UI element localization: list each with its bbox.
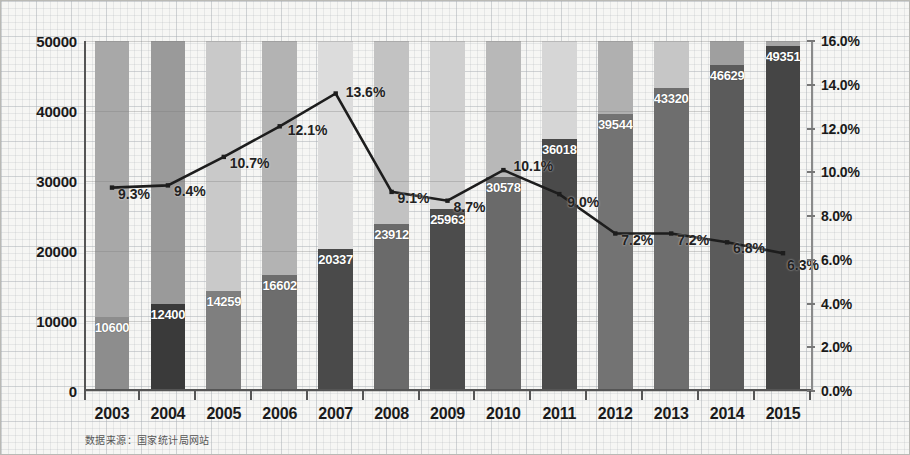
y-axis-right-tick [807,303,815,305]
x-axis-tick [140,391,196,400]
x-axis-tick-label: 2010 [475,405,531,423]
y-axis-right-tick [807,128,815,130]
y-axis-right-tick [807,171,815,173]
source-note: 数据来源：国家统计局网站 [85,432,210,447]
y-axis-left-tick-label: 30000 [36,173,77,190]
y-axis-right-tick [807,346,815,348]
x-axis-tick [699,391,755,400]
x-axis-tick-label: 2012 [587,405,643,423]
x-axis-tick-label: 2008 [364,405,420,423]
x-axis-tick-label: 2004 [140,405,196,423]
y-axis-right-tick-label: 14.0% [821,77,860,93]
y-axis-right-ticks [807,41,815,391]
x-axis-tick-label: 2011 [531,405,587,423]
x-axis-tick-label: 2005 [196,405,252,423]
x-axis-tick-label: 2009 [420,405,476,423]
x-axis-tick [308,391,364,400]
x-axis-tick-label: 2015 [755,405,811,423]
x-axis-tick [643,391,699,400]
x-axis-ticks [84,391,811,400]
y-axis-right-tick-label: 2.0% [821,339,852,355]
y-axis-right-labels: 0.0%2.0%4.0%6.0%8.0%10.0%12.0%14.0%16.0% [821,41,907,391]
y-axis-right-tick-label: 0.0% [821,383,852,399]
y-axis-right-tick-label: 12.0% [821,121,860,137]
x-axis-tick-label: 2013 [643,405,699,423]
plot-area: 1060012400142591660220337239122596330578… [84,41,811,391]
x-axis-tick [755,391,811,400]
y-axis-left-labels: 01000020000300004000050000 [1,41,77,391]
y-axis-right-tick [807,259,815,261]
y-axis-right-tick-label: 16.0% [821,33,860,49]
y-axis-right-tick-label: 4.0% [821,296,852,312]
x-axis-tick-label: 2006 [252,405,308,423]
x-axis-tick-label: 2003 [84,405,140,423]
x-axis-tick [84,391,140,400]
y-axis-right-tick [807,215,815,217]
y-axis-right-tick [807,40,815,42]
x-axis-tick [531,391,587,400]
x-axis-tick [587,391,643,400]
y-axis-left-tick-label: 10000 [36,313,77,330]
y-axis-left-tick-label: 20000 [36,243,77,260]
y-axis-right-tick [807,84,815,86]
x-axis-tick [475,391,531,400]
y-axis-left-tick-label: 50000 [36,33,77,50]
y-axis-right-tick-label: 6.0% [821,252,852,268]
x-axis-tick [364,391,420,400]
y-axis-left-tick-label: 40000 [36,103,77,120]
chart-image: 01000020000300004000050000 1060012400142… [0,0,910,455]
y-axis-left-tick-label: 0 [69,383,77,400]
x-axis-labels: 2003200420052006200720082009201020112012… [84,405,811,423]
x-axis-tick-label: 2014 [699,405,755,423]
x-axis-tick-label: 2007 [308,405,364,423]
x-axis-tick [420,391,476,400]
plot-frame [84,41,811,391]
x-axis-tick [196,391,252,400]
y-axis-right-tick-label: 8.0% [821,208,852,224]
x-axis-tick [252,391,308,400]
y-axis-right-tick-label: 10.0% [821,164,860,180]
